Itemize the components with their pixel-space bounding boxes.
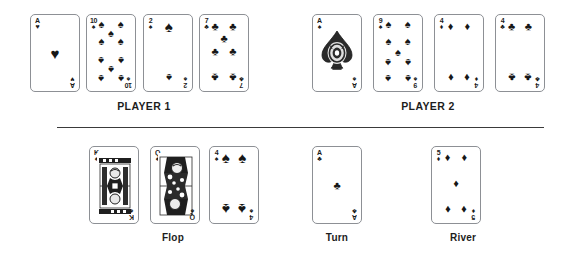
pip-spades-icon: ♠ [98, 19, 104, 30]
pip-diamonds-icon: ♦ [462, 203, 468, 214]
card-flop-2[interactable]: Q ♠ Q [150, 146, 200, 224]
pip-spades-icon: ♠ [405, 73, 411, 84]
card-index-bottom-right: A ♥ [68, 76, 77, 89]
card-player2-1[interactable]: A ♠ A ♠ [312, 14, 362, 92]
pip-spades-icon: ♠ [108, 27, 114, 38]
card-suit-icon: ♣ [533, 76, 542, 83]
pip-spades-icon: ♠ [118, 19, 124, 30]
card-rank: 4 [472, 82, 481, 89]
pip-spades-icon: ♠ [405, 56, 411, 67]
card-rank: 9 [411, 82, 420, 89]
card-pip-area: ♣ [321, 154, 353, 216]
card-pip-area: ♠ ♠ [152, 22, 184, 84]
pip-spades-icon: ♠ [405, 19, 411, 30]
card-flop-3[interactable]: 4 ♠ ♠ ♠ ♠ ♠ 4 ♠ [209, 146, 259, 224]
card-player2-4[interactable]: 4 ♣ ♣ ♣ ♣ ♣ 4 ♣ [495, 14, 545, 92]
pip-clubs-icon: ♣ [220, 33, 227, 44]
pip-hearts-icon: ♥ [51, 46, 60, 61]
card-pip-area: ♦ ♦ ♦ ♦ ♦ [440, 154, 472, 216]
card-index-bottom-right: 9 ♠ [411, 76, 420, 89]
pip-spades-icon: ♠ [222, 201, 230, 216]
card-suit-icon: ♠ [247, 208, 256, 215]
card-index-bottom-right: A ♣ [350, 208, 359, 221]
card-suit-icon: ♠ [411, 76, 420, 83]
pip-spades-icon: ♠ [118, 72, 124, 83]
pip-spades-icon: ♠ [385, 56, 391, 67]
card-player1-1[interactable]: A ♥ ♥ A ♥ [30, 14, 80, 92]
card-rank: 2 [181, 82, 190, 89]
card-pip-area: ♠ ♠ ♠ ♠ ♠ ♠ ♠ ♠ ♠ [382, 22, 414, 84]
pip-clubs-icon: ♣ [211, 45, 218, 56]
card-suit-icon: ♦ [469, 208, 478, 215]
card-pip-area: ♣ ♣ ♣ ♣ [504, 22, 536, 84]
card-index-bottom-right: 4 ♠ [247, 208, 256, 221]
queen-court-art [158, 153, 192, 217]
card-pip-area: ♠ ♠ ♠ ♠ ♠ ♠ ♠ ♠ ♠ ♠ [95, 22, 127, 84]
pip-spades-icon: ♠ [98, 55, 104, 66]
section-divider [57, 127, 544, 128]
pip-clubs-icon: ♣ [508, 20, 515, 31]
card-rank: 7 [237, 82, 246, 89]
player1-label: PLAYER 1 [117, 100, 171, 112]
pip-spades-icon: ♠ [405, 36, 411, 47]
card-suit-icon: ♠ [181, 76, 190, 83]
card-suit-icon: ♣ [350, 208, 359, 215]
pip-spades-icon: ♠ [98, 35, 104, 46]
king-court-art [97, 153, 131, 217]
flop-label: Flop [162, 232, 184, 243]
card-player1-2[interactable]: 10 ♠ ♠ ♠ ♠ ♠ ♠ ♠ ♠ ♠ ♠ ♠ 10 ♠ [86, 14, 136, 92]
pip-spades-icon: ♠ [238, 201, 246, 216]
pip-clubs-icon: ♣ [211, 20, 218, 31]
pip-diamonds-icon: ♦ [445, 203, 451, 214]
pip-spades-icon: ♠ [118, 35, 124, 46]
card-player2-3[interactable]: 4 ♦ ♦ ♦ ♦ ♦ 4 ♦ [434, 14, 484, 92]
card-index-bottom-right: K ♠ [127, 208, 136, 221]
card-flop-1[interactable]: K ♠ [89, 146, 139, 224]
card-rank: 4 [533, 82, 542, 89]
pip-clubs-icon: ♣ [525, 20, 532, 31]
pip-spades-icon: ♠ [222, 150, 230, 165]
pip-spades-icon: ♠ [98, 72, 104, 83]
card-index-bottom-right: 7 ♣ [237, 76, 246, 89]
pip-spades-icon: ♠ [385, 19, 391, 30]
card-rank: K [127, 214, 136, 221]
card-player2-2[interactable]: 9 ♠ ♠ ♠ ♠ ♠ ♠ ♠ ♠ ♠ ♠ 9 ♠ [373, 14, 423, 92]
card-river-1[interactable]: 5 ♦ ♦ ♦ ♦ ♦ ♦ 5 ♦ [431, 146, 481, 224]
card-pip-area: ♥ [39, 22, 71, 84]
pip-clubs-icon: ♣ [333, 180, 340, 191]
card-pip-area: ♦ ♦ ♦ ♦ [443, 22, 475, 84]
pip-diamonds-icon: ♦ [448, 20, 454, 31]
card-pip-area: ♠ ♠ ♠ ♠ [218, 154, 250, 216]
card-rank: A [68, 82, 77, 89]
player2-label: PLAYER 2 [401, 100, 455, 112]
pip-clubs-icon: ♣ [211, 71, 218, 82]
pip-spades-icon: ♠ [118, 55, 124, 66]
card-turn-1[interactable]: A ♣ ♣ A ♣ [312, 146, 362, 224]
turn-label: Turn [326, 232, 348, 243]
card-suit-icon: ♣ [237, 76, 246, 83]
river-label: River [450, 232, 476, 243]
card-index-bottom-right: Q ♠ [188, 208, 197, 221]
pip-spades-icon: ♠ [165, 18, 173, 33]
card-player1-3[interactable]: 2 ♠ ♠ ♠ 2 ♠ [143, 14, 193, 92]
pip-diamonds-icon: ♦ [465, 20, 471, 31]
card-rank: A [350, 82, 359, 89]
card-rank: 5 [469, 214, 478, 221]
pip-spades-icon: ♠ [238, 150, 246, 165]
card-rank: 4 [247, 214, 256, 221]
card-pip-area: ♣ ♣ ♣ ♣ ♣ ♣ ♣ [208, 22, 240, 84]
pip-spades-icon: ♠ [108, 63, 114, 74]
card-rank: 10 [124, 82, 133, 89]
card-player1-4[interactable]: 7 ♣ ♣ ♣ ♣ ♣ ♣ ♣ ♣ 7 ♣ [199, 14, 249, 92]
pip-spades-icon: ♠ [395, 46, 401, 57]
pip-clubs-icon: ♣ [229, 71, 236, 82]
card-index-bottom-right: 10 ♠ [124, 76, 133, 89]
card-index-bottom-right: 5 ♦ [469, 208, 478, 221]
pip-clubs-icon: ♣ [229, 20, 236, 31]
pip-diamonds-icon: ♦ [448, 71, 454, 82]
ornate-ace-of-spades-icon [320, 29, 354, 77]
card-index-bottom-right: A ♠ [350, 76, 359, 89]
card-index-bottom-right: 4 ♦ [472, 76, 481, 89]
pip-diamonds-icon: ♦ [453, 178, 459, 189]
pip-diamonds-icon: ♦ [465, 71, 471, 82]
